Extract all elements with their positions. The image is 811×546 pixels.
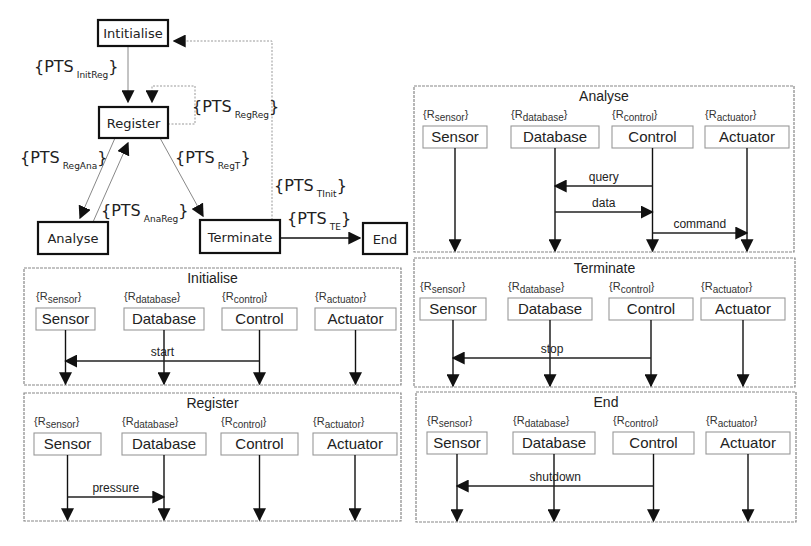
panel-border (416, 392, 796, 522)
transition-label-regreg: {PTSRegReg} (192, 97, 279, 120)
panel-title: End (594, 394, 619, 410)
message-label: shutdown (530, 470, 581, 484)
transition-label-regana: {PTSRegAna} (20, 148, 107, 171)
svg-text:{PTSTE}: {PTSTE} (287, 209, 351, 232)
panel-border (414, 86, 794, 252)
state-label: Intitialise (103, 26, 162, 41)
role-label: Control (627, 300, 675, 317)
state-init: Intitialise (98, 20, 168, 46)
protocol-diagram: IntitialiseRegisterAnalyseTerminateEnd {… (0, 0, 811, 546)
role-label: Actuator (327, 435, 383, 452)
role-label: Sensor (44, 435, 92, 452)
message-label: pressure (92, 481, 139, 495)
state-label: Register (107, 116, 161, 131)
transition-label-regt: {PTSRegT} (175, 148, 251, 171)
state-label: End (373, 232, 398, 247)
role-label: Actuator (715, 300, 771, 317)
message-label: start (151, 345, 175, 359)
transition-label-tinit: {PTSTInit} (274, 176, 347, 199)
svg-text:{PTSAnaReg}: {PTSAnaReg} (101, 201, 188, 224)
transition-terminate-init (174, 41, 272, 220)
state-machine-diagram: IntitialiseRegisterAnalyseTerminateEnd {… (20, 20, 407, 254)
state-label: Terminate (207, 230, 272, 245)
state-register: Register (99, 107, 168, 138)
panel-title: Terminate (574, 260, 636, 276)
svg-text:{PTSInitReg}: {PTSInitReg} (34, 57, 118, 80)
role-label: Actuator (720, 434, 776, 451)
panel-border (414, 258, 795, 387)
role-label: Control (235, 310, 283, 327)
transition-label-initreg: {PTSInitReg} (34, 57, 118, 80)
role-label: Database (522, 434, 586, 451)
transition-labels: {PTSInitReg}{PTSRegReg}{PTSRegAna}{PTSRe… (20, 57, 351, 232)
sequence-panels: Initialise{Rsensor}Sensor{Rdatabase}Data… (24, 86, 796, 522)
message-label: command (673, 217, 726, 231)
panel-border (24, 393, 401, 521)
panel-end: End{Rsensor}Sensor{Rdatabase}Database{Rc… (416, 392, 796, 522)
svg-text:{PTSRegReg}: {PTSRegReg} (192, 97, 279, 120)
role-label: Sensor (42, 310, 90, 327)
role-label: Sensor (429, 300, 477, 317)
panel-initialise: Initialise{Rsensor}Sensor{Rdatabase}Data… (24, 268, 401, 385)
role-label: Actuator (719, 128, 775, 145)
transition-label-te: {PTSTE} (287, 209, 351, 232)
transition-label-anareg: {PTSAnaReg} (101, 201, 188, 224)
panel-title: Initialise (187, 270, 238, 286)
role-label: Sensor (431, 128, 479, 145)
role-label: Control (235, 435, 283, 452)
panel-register: Register{Rsensor}Sensor{Rdatabase}Databa… (24, 393, 401, 521)
role-label: Database (523, 128, 587, 145)
states: IntitialiseRegisterAnalyseTerminateEnd (38, 20, 407, 254)
message-label: query (589, 170, 619, 184)
state-end: End (363, 223, 407, 254)
role-label: Database (132, 435, 196, 452)
role-label: Control (629, 434, 677, 451)
state-terminate: Terminate (200, 220, 280, 253)
svg-text:{PTSTInit}: {PTSTInit} (274, 176, 347, 199)
panel-terminate: Terminate{Rsensor}Sensor{Rdatabase}Datab… (414, 258, 795, 387)
svg-text:{PTSRegT}: {PTSRegT} (175, 148, 251, 171)
message-label: stop (541, 342, 564, 356)
state-analyse: Analyse (38, 222, 108, 254)
role-label: Control (628, 128, 676, 145)
svg-text:{PTSRegAna}: {PTSRegAna} (20, 148, 107, 171)
message-label: data (592, 196, 616, 210)
panel-title: Analyse (579, 88, 629, 104)
role-label: Actuator (328, 310, 384, 327)
role-label: Sensor (433, 434, 481, 451)
panel-analyse: Analyse{Rsensor}Sensor{Rdatabase}Databas… (414, 86, 794, 252)
state-label: Analyse (47, 231, 98, 246)
role-label: Database (518, 300, 582, 317)
panel-title: Register (186, 395, 238, 411)
role-label: Database (132, 310, 196, 327)
